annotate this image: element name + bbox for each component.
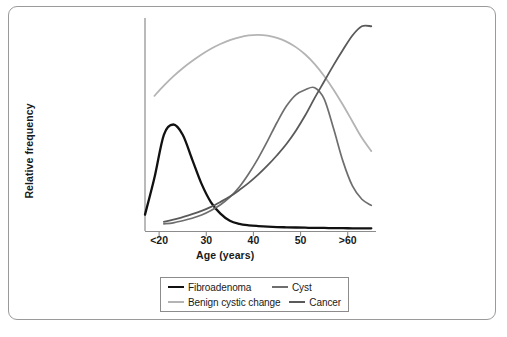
curve-cancer <box>164 26 371 222</box>
y-axis-title: Relative frequency <box>23 91 35 211</box>
x-tick-label: 50 <box>295 234 307 246</box>
legend-label: Cyst <box>292 282 312 293</box>
x-tick-label: 30 <box>200 234 212 246</box>
legend-swatch-icon <box>168 286 184 288</box>
axes <box>145 18 376 236</box>
curve-benign-cystic-change <box>154 35 371 151</box>
x-tick-label: >60 <box>339 234 357 246</box>
legend-item-cancer[interactable]: Cancer <box>289 297 341 308</box>
legend-swatch-icon <box>289 301 305 303</box>
legend-row: Benign cystic change Cancer <box>168 295 341 310</box>
legend-swatch-icon <box>168 301 184 303</box>
chart-legend: Fibroadenoma Cyst Benign cystic change C… <box>160 277 349 312</box>
legend-item-benign-cystic-change[interactable]: Benign cystic change <box>168 297 289 308</box>
curve-cyst <box>164 87 371 224</box>
x-axis-title: Age (years) <box>196 249 254 261</box>
legend-label: Cancer <box>309 297 341 308</box>
legend-swatch-icon <box>272 286 288 288</box>
x-tick-label: <20 <box>150 234 168 246</box>
legend-item-cyst[interactable]: Cyst <box>272 282 312 293</box>
legend-item-fibroadenoma[interactable]: Fibroadenoma <box>168 282 272 293</box>
data-curves <box>145 26 371 229</box>
legend-row: Fibroadenoma Cyst <box>168 280 341 295</box>
legend-label: Fibroadenoma <box>188 282 251 293</box>
chart-area: Relative frequency Age (years) <20304050… <box>0 0 507 337</box>
x-tick-label: 40 <box>248 234 260 246</box>
legend-label: Benign cystic change <box>188 297 281 308</box>
